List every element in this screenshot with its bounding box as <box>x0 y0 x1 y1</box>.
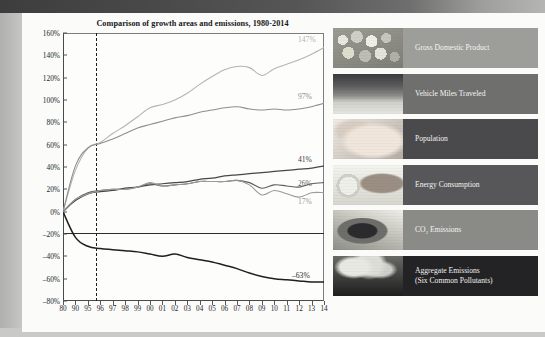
y-axis-tick-mark <box>63 144 67 145</box>
x-axis-tick-mark <box>225 301 226 305</box>
series-line <box>63 48 324 212</box>
y-axis-tick-mark <box>63 33 67 34</box>
series-end-label: 147% <box>298 34 316 43</box>
x-axis-tick-mark <box>237 301 238 305</box>
y-axis-tick-label: –20% <box>43 230 60 239</box>
x-axis-tick-label: 13 <box>308 305 315 313</box>
x-axis-tick-mark <box>88 301 89 305</box>
y-axis-tick-mark <box>63 189 67 190</box>
series-end-label: 41% <box>298 154 312 163</box>
scan-grain-overlay <box>333 256 403 296</box>
legend-item: Energy Consumption <box>333 165 538 205</box>
x-axis-tick-label: 96 <box>97 305 104 313</box>
series-line <box>63 166 324 212</box>
scan-grain-overlay <box>333 119 403 159</box>
y-axis-tick-label: –40% <box>43 252 60 261</box>
x-axis-tick-label: 08 <box>246 305 253 313</box>
scan-grain-overlay <box>333 28 403 68</box>
y-axis-tick-label: 0% <box>50 207 60 216</box>
series-line <box>63 180 324 211</box>
y-axis-tick-label: 20% <box>46 185 60 194</box>
smokestacks-photo <box>333 256 403 296</box>
traffic-photo <box>333 74 403 114</box>
x-axis-tick-mark <box>187 301 188 305</box>
y-axis: 160%140%120%100%80%60%40%20%0%–20%–40%–6… <box>0 0 60 337</box>
y-axis-tick-label: 160% <box>43 29 60 38</box>
legend-item-label: Population <box>415 134 448 144</box>
legend-item: Gross Domestic Product <box>333 28 538 68</box>
y-axis-tick-mark <box>63 122 67 123</box>
legend-item-label: Vehicle Miles Traveled <box>415 89 485 99</box>
series-end-label: –63% <box>292 271 310 280</box>
y-axis-tick-mark <box>63 167 67 168</box>
x-axis-tick-label: 06 <box>221 305 228 313</box>
x-axis-tick-label: 09 <box>258 305 265 313</box>
y-axis-tick-mark <box>63 278 67 279</box>
x-axis-tick-mark <box>312 301 313 305</box>
chart-title: Comparison of growth areas and emissions… <box>60 19 325 28</box>
scan-grain-overlay <box>333 165 403 205</box>
x-axis-tick-label: 80 <box>59 305 66 313</box>
legend-item-label: Energy Consumption <box>415 180 480 190</box>
x-axis-tick-mark <box>200 301 201 305</box>
scan-top-band <box>0 0 545 13</box>
legend-color-band: Vehicle Miles Traveled <box>403 74 538 114</box>
legend: Gross Domestic ProductVehicle Miles Trav… <box>333 28 538 301</box>
y-axis-tick-label: 100% <box>43 96 60 105</box>
legend-color-band: Gross Domestic Product <box>403 28 538 68</box>
x-axis-tick-label: 10 <box>271 305 278 313</box>
y-axis-tick-label: 120% <box>43 73 60 82</box>
x-axis-tick-mark <box>75 301 76 305</box>
x-axis-tick-mark <box>299 301 300 305</box>
series-end-label: 17% <box>298 196 312 205</box>
x-axis-tick-mark <box>162 301 163 305</box>
x-axis-tick-label: 12 <box>296 305 303 313</box>
x-axis-tick-label: 97 <box>109 305 116 313</box>
legend-item-label: CO₂ Emissions <box>415 225 461 235</box>
scan-grain-overlay <box>333 74 403 114</box>
series-line <box>63 212 324 282</box>
x-axis-tick-mark <box>150 301 151 305</box>
x-axis-tick-label: 02 <box>171 305 178 313</box>
x-axis-tick-label: 05 <box>209 305 216 313</box>
y-axis-tick-label: 60% <box>46 140 60 149</box>
legend-color-band: CO₂ Emissions <box>403 210 538 250</box>
x-axis-tick-mark <box>125 301 126 305</box>
x-axis-tick-label: 07 <box>233 305 240 313</box>
y-axis-tick-label: 40% <box>46 163 60 172</box>
legend-item: Vehicle Miles Traveled <box>333 74 538 114</box>
y-axis-tick-label: 80% <box>46 118 60 127</box>
x-axis-tick-mark <box>138 301 139 305</box>
legend-color-band: Population <box>403 119 538 159</box>
legend-item-label: Aggregate Emissions(Six Common Pollutant… <box>415 266 493 285</box>
series-end-label: 97% <box>298 92 312 101</box>
x-axis-tick-label: 04 <box>196 305 203 313</box>
x-axis-tick-mark <box>212 301 213 305</box>
y-axis-tick-label: –60% <box>43 274 60 283</box>
legend-item: CO₂ Emissions <box>333 210 538 250</box>
x-axis-tick-label: 90 <box>72 305 79 313</box>
legend-item: Population <box>333 119 538 159</box>
baby-photo <box>333 119 403 159</box>
y-axis-tick-label: 140% <box>43 51 60 60</box>
y-axis-tick-mark <box>63 55 67 56</box>
legend-color-band: Energy Consumption <box>403 165 538 205</box>
x-axis-tick-label: 99 <box>134 305 141 313</box>
x-axis-tick-label: 11 <box>283 305 290 313</box>
x-axis-tick-mark <box>100 301 101 305</box>
screenshot-root: Comparison of growth areas and emissions… <box>0 0 545 337</box>
x-axis-tick-mark <box>324 301 325 305</box>
coins-photo <box>333 28 403 68</box>
x-axis-tick-label: 00 <box>146 305 153 313</box>
y-axis-tick-mark <box>63 256 67 257</box>
legend-color-band: Aggregate Emissions(Six Common Pollutant… <box>403 256 538 296</box>
exhaust-pipe-photo <box>333 210 403 250</box>
x-axis-tick-label: 98 <box>122 305 129 313</box>
y-axis-tick-mark <box>63 301 67 302</box>
x-axis-tick-label: 01 <box>159 305 166 313</box>
y-axis-tick-mark <box>63 234 67 235</box>
y-axis-tick-label: –80% <box>43 297 60 306</box>
y-axis-tick-mark <box>63 77 67 78</box>
x-axis-tick-mark <box>262 301 263 305</box>
legend-item: Aggregate Emissions(Six Common Pollutant… <box>333 256 538 296</box>
